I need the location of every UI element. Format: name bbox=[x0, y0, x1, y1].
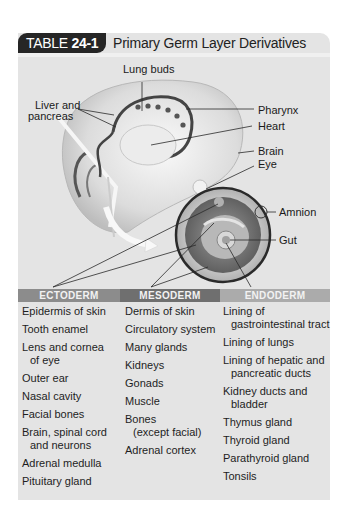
list-item: Thyroid gland bbox=[223, 434, 329, 447]
list-item: Dermis of skin bbox=[125, 305, 215, 318]
item-text: Tonsils bbox=[223, 470, 257, 482]
list-item: Tonsils bbox=[223, 470, 329, 483]
label-eye: Eye bbox=[258, 158, 277, 170]
table-title: Primary Germ Layer Derivatives bbox=[113, 33, 306, 53]
item-text-continued: and neurons bbox=[22, 439, 107, 452]
list-item: Thymus gland bbox=[223, 416, 329, 429]
item-text-continued: of eye bbox=[22, 354, 107, 367]
item-text: Kidney ducts and bbox=[223, 385, 307, 397]
table-title-bar: TABLE 24-1 Primary Germ Layer Derivative… bbox=[18, 33, 330, 53]
list-item: Epidermis of skin bbox=[22, 305, 107, 318]
item-text: Epidermis of skin bbox=[22, 305, 106, 317]
item-text: Facial bones bbox=[22, 408, 84, 420]
list-item: Bones(except facial) bbox=[125, 413, 215, 439]
label-lung-buds: Lung buds bbox=[123, 63, 174, 75]
table-number-tag: TABLE 24-1 bbox=[18, 33, 106, 53]
item-text: Lens and cornea bbox=[22, 341, 104, 353]
list-item: Gonads bbox=[125, 377, 215, 390]
list-item: Nasal cavity bbox=[22, 390, 107, 403]
item-text: Lining of bbox=[223, 305, 265, 317]
endoderm-list: Lining ofgastrointestinal tract Lining o… bbox=[223, 305, 329, 488]
ectoderm-list: Epidermis of skin Tooth enamel Lens and … bbox=[22, 305, 107, 493]
item-text: Adrenal medulla bbox=[22, 457, 102, 469]
list-item: Kidney ducts andbladder bbox=[223, 385, 329, 411]
header-endoderm: ENDODERM bbox=[220, 289, 330, 302]
list-item: Muscle bbox=[125, 395, 215, 408]
item-text: Circulatory system bbox=[125, 323, 215, 335]
list-item: Lining of hepatic andpancreatic ducts bbox=[223, 354, 329, 380]
list-item: Circulatory system bbox=[125, 323, 215, 336]
item-text: Dermis of skin bbox=[125, 305, 195, 317]
list-item: Tooth enamel bbox=[22, 323, 107, 336]
item-text-continued: pancreatic ducts bbox=[223, 367, 329, 380]
list-item: Adrenal cortex bbox=[125, 444, 215, 457]
embryo-illustration: Lung buds Liver and pancreas Pharynx Hea… bbox=[18, 57, 330, 289]
item-text: Pituitary gland bbox=[22, 475, 92, 487]
table-tag-prefix: TABLE bbox=[26, 35, 71, 51]
item-text-continued: bladder bbox=[223, 398, 329, 411]
list-item: Brain, spinal cordand neurons bbox=[22, 426, 107, 452]
list-item: Lining of lungs bbox=[223, 336, 329, 349]
item-text: Brain, spinal cord bbox=[22, 426, 107, 438]
item-text: Adrenal cortex bbox=[125, 444, 196, 456]
header-ectoderm: ECTODERM bbox=[18, 289, 120, 302]
item-text: Thymus gland bbox=[223, 416, 292, 428]
label-heart: Heart bbox=[258, 120, 285, 132]
embryo-diagram-icon bbox=[18, 57, 330, 289]
item-text: Lining of hepatic and bbox=[223, 354, 325, 366]
item-text: Nasal cavity bbox=[22, 390, 81, 402]
list-item: Outer ear bbox=[22, 372, 107, 385]
item-text: Many glands bbox=[125, 341, 187, 353]
item-text-continued: gastrointestinal tract bbox=[223, 318, 329, 331]
item-text: Kidneys bbox=[125, 359, 164, 371]
item-text: Tooth enamel bbox=[22, 323, 88, 335]
item-text: Lining of lungs bbox=[223, 336, 294, 348]
item-text-continued: (except facial) bbox=[125, 426, 215, 439]
item-text: Thyroid gland bbox=[223, 434, 290, 446]
list-item: Adrenal medulla bbox=[22, 457, 107, 470]
list-item: Facial bones bbox=[22, 408, 107, 421]
header-mesoderm: MESODERM bbox=[120, 289, 220, 302]
list-item: Lining ofgastrointestinal tract bbox=[223, 305, 329, 331]
label-brain: Brain bbox=[258, 145, 284, 157]
list-item: Lens and corneaof eye bbox=[22, 341, 107, 367]
item-text: Gonads bbox=[125, 377, 164, 389]
label-gut: Gut bbox=[279, 234, 297, 246]
label-liver-line2: pancreas bbox=[28, 110, 73, 122]
item-text: Outer ear bbox=[22, 372, 68, 384]
table-tag-number: 24-1 bbox=[71, 35, 98, 51]
mesoderm-list: Dermis of skin Circulatory system Many g… bbox=[125, 305, 215, 462]
label-pharynx: Pharynx bbox=[258, 104, 298, 116]
list-item: Many glands bbox=[125, 341, 215, 354]
item-text: Parathyroid gland bbox=[223, 452, 309, 464]
list-item: Pituitary gland bbox=[22, 475, 107, 488]
germ-layer-headers: ECTODERM MESODERM ENDODERM bbox=[18, 289, 330, 302]
list-item: Parathyroid gland bbox=[223, 452, 329, 465]
label-amnion: Amnion bbox=[279, 206, 316, 218]
item-text: Bones bbox=[125, 413, 156, 425]
item-text: Muscle bbox=[125, 395, 160, 407]
list-item: Kidneys bbox=[125, 359, 215, 372]
